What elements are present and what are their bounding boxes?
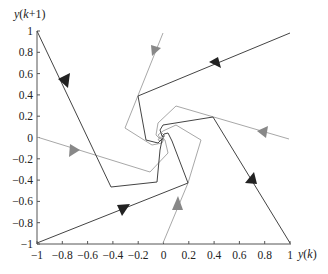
x-tick-label: 0.2 bbox=[182, 249, 197, 261]
x-tick-label: −0.6 bbox=[77, 249, 98, 261]
x-tick-label: −0.4 bbox=[102, 249, 123, 261]
trajectory-dark-top-left bbox=[37, 31, 163, 187]
y-ticks: 10.80.60.40.20−0.2−0.4−0.6−0.8−1 bbox=[12, 25, 40, 250]
y-axis-label: y(k+1) bbox=[13, 7, 45, 21]
y-tick-label: 0.6 bbox=[19, 68, 34, 80]
trajectory-dark-bottom-right bbox=[160, 117, 290, 243]
y-tick-label: −0.4 bbox=[12, 174, 33, 186]
x-tick-label: 0.4 bbox=[207, 249, 222, 261]
x-axis-label: y(k) bbox=[297, 247, 317, 261]
plot-canvas: 10.80.60.40.20−0.2−0.4−0.6−0.8−1 −1−0.8−… bbox=[0, 0, 328, 274]
y-tick-label: 0.2 bbox=[19, 110, 34, 122]
arrow-gray-down-icon bbox=[151, 45, 161, 56]
arrow-dark-down-right-icon bbox=[58, 73, 70, 88]
x-tick-label: −0.8 bbox=[52, 249, 73, 261]
y-tick-label: −0.8 bbox=[12, 217, 33, 229]
arrow-gray-right-icon bbox=[69, 144, 80, 157]
y-tick-label: −0.6 bbox=[12, 195, 33, 207]
y-tick-label: 0.8 bbox=[19, 46, 34, 58]
x-tick-label: 0.8 bbox=[258, 249, 273, 261]
trajectory-gray-bottom bbox=[158, 125, 201, 243]
x-tick-label: 1 bbox=[287, 249, 293, 261]
x-tick-label: −0.2 bbox=[128, 249, 149, 261]
x-tick-label: 0.6 bbox=[232, 249, 247, 261]
arrow-gray-left-icon bbox=[257, 126, 268, 138]
trajectories bbox=[37, 31, 290, 243]
y-tick-label: 0.4 bbox=[19, 89, 34, 101]
y-tick-label: 0 bbox=[27, 132, 33, 144]
trajectory-dark-bottom-left bbox=[37, 133, 188, 243]
phase-plot: 10.80.60.40.20−0.2−0.4−0.6−0.8−1 −1−0.8−… bbox=[0, 0, 328, 274]
arrow-dark-up-left-icon bbox=[245, 172, 257, 184]
y-tick-label: −0.2 bbox=[12, 153, 33, 165]
x-tick-label: −1 bbox=[31, 249, 43, 261]
x-tick-label: 0 bbox=[161, 249, 167, 261]
y-tick-label: 1 bbox=[27, 25, 33, 37]
